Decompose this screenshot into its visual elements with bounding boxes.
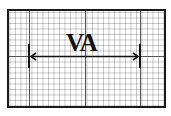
interval-label: VA [66, 30, 97, 55]
interval-arrow [0, 0, 171, 116]
